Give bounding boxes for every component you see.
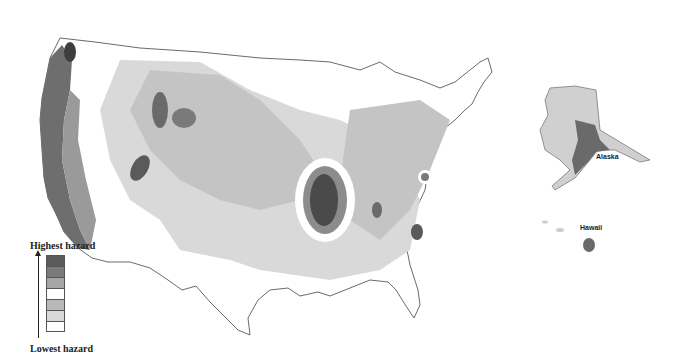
hazard-hotspot-puget [64,42,76,62]
hazard-hotspot-virginia-core [421,173,429,181]
legend-swatch-7 [46,255,65,266]
hawaii-big-island [583,238,595,252]
legend-swatch-3 [46,299,65,310]
legend-swatch-4 [46,288,65,299]
label-alaska: Alaska [596,153,619,160]
label-hawaii: Hawaii [580,224,602,231]
legend: Highest hazard Lowest hazard [30,240,120,357]
hazard-hotspot-charleston [411,224,423,240]
hazard-zone-mid-east [340,100,450,240]
legend-lowest-label: Lowest hazard [30,343,93,354]
hazard-hotspot-new-madrid [310,174,338,226]
legend-swatch-5 [46,277,65,288]
hazard-hotspot-tennessee [372,202,382,218]
hawaii-islands [556,228,564,232]
legend-swatch-2 [46,310,65,321]
legend-swatch-6 [46,266,65,277]
legend-swatch-1 [46,321,65,332]
arrow-up-icon [38,254,39,338]
hazard-hotspot-wyoming [152,92,168,128]
hawaii-islands-west [542,221,548,224]
hazard-hotspot-yellowstone [172,108,196,128]
legend-swatches [46,255,65,332]
alaska-high-hazard [572,120,610,175]
